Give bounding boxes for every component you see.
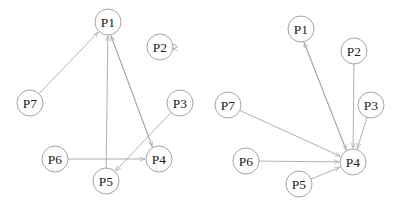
node-label: P2 [347,44,361,59]
edge-p4-to-p1 [304,43,346,151]
node-label: P4 [152,152,167,167]
node-p1: P1 [95,9,121,35]
left-graph-nodes: P1P2P3P4P5P6P7 [17,9,193,194]
network-diagram-canvas: P1P2P3P4P5P6P7 P1P2P3P4P5P6P7 [0,0,402,208]
node-p2: P2 [147,34,173,60]
edge-p7-to-p1 [39,32,98,94]
node-label: P2 [153,40,167,55]
edge-p6-to-p4 [259,161,339,162]
edge-p5-to-p1 [106,36,108,168]
node-p5: P5 [286,171,312,197]
node-label: P4 [346,155,361,170]
node-label: P6 [48,152,63,167]
node-label: P7 [23,96,38,111]
node-p4: P4 [146,146,172,172]
left-graph: P1P2P3P4P5P6P7 [17,9,193,194]
node-p7: P7 [215,92,241,118]
node-p3: P3 [167,90,193,116]
node-p5: P5 [93,168,119,194]
edge-p4-to-p1 [111,36,153,148]
node-label: P6 [239,154,254,169]
node-p6: P6 [233,148,259,174]
right-graph-nodes: P1P2P3P4P5P6P7 [215,16,384,197]
right-graph: P1P2P3P4P5P6P7 [215,16,384,197]
self-loop-edge-p2 [173,45,176,49]
edge-p2-to-p4 [353,64,354,148]
node-label: P7 [221,98,236,113]
node-label: P3 [364,98,379,113]
node-label: P3 [173,96,188,111]
node-label: P1 [294,22,308,37]
node-label: P1 [101,15,115,30]
node-p4: P4 [340,149,366,175]
node-p7: P7 [17,90,43,116]
node-label: P5 [99,174,114,189]
node-p6: P6 [42,146,68,172]
node-label: P5 [292,177,307,192]
edge-p7-to-p4 [240,110,340,156]
node-p2: P2 [341,38,367,64]
edge-p3-to-p4 [357,117,367,148]
node-p3: P3 [358,92,384,118]
node-p1: P1 [288,16,314,42]
edge-p5-to-p4 [311,167,340,179]
